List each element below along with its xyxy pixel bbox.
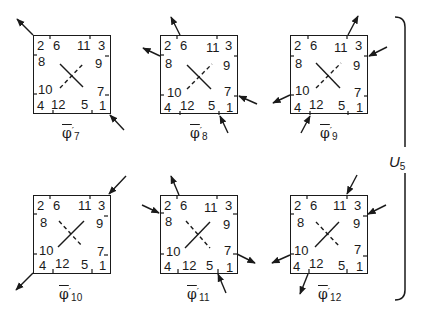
crossing-phi9 bbox=[316, 63, 341, 88]
bracket-right bbox=[395, 17, 405, 300]
arrow-out-10 bbox=[272, 255, 290, 263]
arrows-phi8 bbox=[143, 17, 257, 133]
crossing-phi12 bbox=[315, 222, 340, 247]
arrow-in-9 bbox=[368, 205, 386, 214]
arrow-out-8 bbox=[143, 48, 160, 56]
arrow-in-12 bbox=[301, 116, 310, 133]
arrow-out-6 bbox=[171, 176, 179, 195]
arrow-out-12 bbox=[300, 274, 308, 294]
arrow-in-7 bbox=[239, 96, 257, 104]
diagram-graphics bbox=[0, 0, 427, 322]
arrow-in-9 bbox=[369, 47, 387, 56]
arrow-in-5 bbox=[218, 274, 226, 293]
crossing-phi10 bbox=[58, 221, 84, 247]
arrow-out-4 bbox=[16, 273, 33, 290]
arrow-in-11 bbox=[347, 175, 357, 194]
arrow-out-10 bbox=[273, 95, 290, 103]
crossing-phi8 bbox=[187, 64, 212, 89]
arrows-phi9 bbox=[273, 16, 387, 133]
arrow-out-6 bbox=[171, 17, 180, 35]
crossing-phi7 bbox=[60, 63, 84, 88]
arrow-in-3 bbox=[109, 176, 126, 194]
arrow-out-2 bbox=[17, 19, 33, 35]
arrow-out-11 bbox=[348, 16, 358, 35]
arrows-phi10 bbox=[16, 176, 126, 290]
arrow-out-7 bbox=[237, 254, 255, 263]
arrow-in-1 bbox=[110, 115, 124, 130]
arrows-phi12 bbox=[272, 175, 386, 294]
arrow-in-8 bbox=[142, 205, 159, 213]
crossing-phi11 bbox=[185, 221, 210, 248]
braid-diagram-figure: 2 6 11 3 8 9 10 7 4 12 5 1 2 6 11 3 8 9 … bbox=[0, 0, 427, 322]
arrow-in-5 bbox=[220, 116, 228, 133]
